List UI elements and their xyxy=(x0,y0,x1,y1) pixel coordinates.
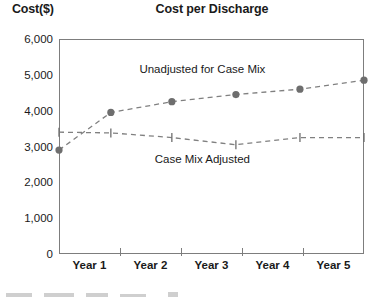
series-1 xyxy=(55,77,367,154)
series-label: Case Mix Adjusted xyxy=(155,153,250,165)
x-axis-tick-labels: Year 1Year 2Year 3Year 4Year 5 xyxy=(59,256,364,280)
x-axis-tick-mark xyxy=(120,248,121,256)
y-axis-tick-label: 2,000 xyxy=(5,176,53,188)
x-axis-tick-mark xyxy=(303,248,304,256)
data-point-marker xyxy=(55,146,62,153)
data-point-marker xyxy=(232,91,239,98)
chart-figure: Cost($) Cost per Discharge 01,0002,0003,… xyxy=(0,0,382,297)
scan-bleed-artifacts xyxy=(0,287,382,297)
y-axis-tick-labels: 01,0002,0003,0004,0005,0006,000 xyxy=(0,0,53,297)
y-axis-tick-label: 3,000 xyxy=(5,141,53,153)
x-axis-tick-label: Year 1 xyxy=(73,259,107,271)
y-axis-tick-label: 6,000 xyxy=(5,33,53,45)
data-point-marker xyxy=(107,109,114,116)
x-axis-tick-label: Year 3 xyxy=(195,259,229,271)
x-axis-tick-label: Year 4 xyxy=(256,259,290,271)
x-axis-tick-label: Year 2 xyxy=(134,259,168,271)
series-label: Unadjusted for Case Mix xyxy=(139,63,265,75)
chart-title: Cost per Discharge xyxy=(59,2,365,16)
y-axis-tick-label: 1,000 xyxy=(5,212,53,224)
series-2 xyxy=(59,128,364,150)
x-axis-tick-mark xyxy=(181,248,182,256)
x-axis-tick-label: Year 5 xyxy=(317,259,351,271)
y-axis-tick-label: 5,000 xyxy=(5,69,53,81)
series-line xyxy=(59,132,364,145)
x-axis-tick-mark xyxy=(242,248,243,256)
series-line xyxy=(59,80,364,150)
data-point-marker xyxy=(360,77,367,84)
y-axis-tick-label: 4,000 xyxy=(5,105,53,117)
data-point-marker xyxy=(168,98,175,105)
y-axis-tick-label: 0 xyxy=(5,248,53,260)
data-point-marker xyxy=(296,86,303,93)
